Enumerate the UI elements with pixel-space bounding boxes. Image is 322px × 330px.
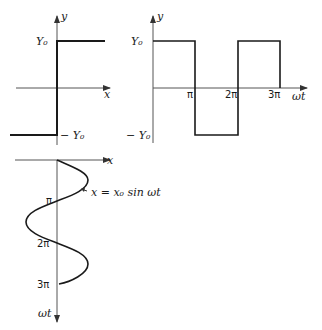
step-function-plot: y x Y₀ − Y₀ bbox=[10, 10, 111, 145]
diagram-canvas: y x Y₀ − Y₀ y ωt Y₀ − Y₀ π 2π 3π x ωt π … bbox=[0, 0, 322, 330]
tick-2pi: 2π bbox=[225, 89, 237, 100]
tick-3pi: 3π bbox=[37, 279, 49, 290]
upper-level-label: Y₀ bbox=[36, 35, 48, 48]
tick-pi: π bbox=[46, 195, 52, 206]
lower-level-label: − Y₀ bbox=[60, 129, 85, 142]
equation-label: x = x₀ sin ωt bbox=[91, 186, 161, 199]
sine-trace-plot: x ωt π 2π 3π x = x₀ sin ωt bbox=[15, 154, 161, 322]
x-axis-label: x bbox=[104, 88, 111, 101]
t-axis-label: ωt bbox=[38, 307, 52, 320]
tick-pi: π bbox=[187, 89, 193, 100]
lower-level-label: − Y₀ bbox=[126, 129, 151, 142]
y-axis-label: y bbox=[60, 10, 68, 23]
x-axis-label: ωt bbox=[292, 90, 306, 103]
tick-2pi: 2π bbox=[37, 238, 49, 249]
upper-level-label: Y₀ bbox=[131, 35, 143, 48]
square-wave-plot: y ωt Y₀ − Y₀ π 2π 3π bbox=[126, 10, 307, 143]
x-axis-label: x bbox=[107, 154, 114, 167]
tick-3pi: 3π bbox=[268, 89, 280, 100]
y-axis-label: y bbox=[156, 10, 164, 23]
